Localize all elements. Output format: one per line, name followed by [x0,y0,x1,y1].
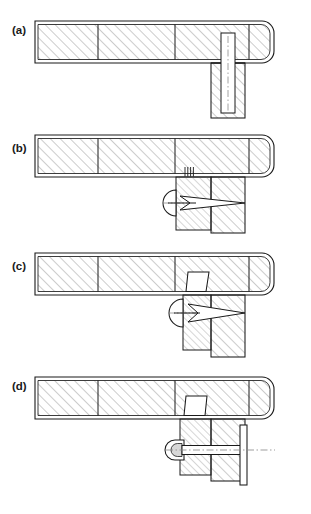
panel-d-label: (d) [12,380,27,392]
fastener-installation-diagram: (a) (b) [0,0,311,514]
panel-d-bar-section [38,381,270,416]
panel-c-label: (c) [12,260,26,272]
panel-b-label: (b) [12,142,27,154]
panel-d-upset-head [184,396,207,416]
figure-container: (a) (b) [0,0,311,514]
panel-c-upset-head [186,272,209,292]
panel-a-label: (a) [12,24,26,36]
panel-d-flange [240,425,247,485]
panel-c-boss [211,295,245,357]
panel-b-bar-section [38,139,270,174]
panel-c-bar-section [38,257,270,292]
